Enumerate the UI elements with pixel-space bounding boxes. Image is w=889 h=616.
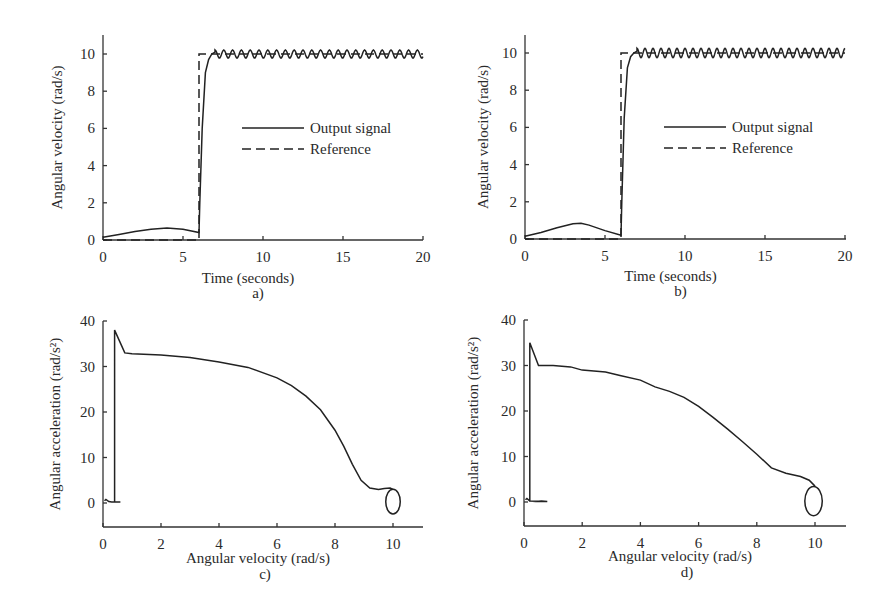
y-tick-label: 10 xyxy=(80,46,95,62)
y-tick-label: 0 xyxy=(88,495,96,511)
legend-label: Reference xyxy=(310,141,371,157)
y-tick-label: 6 xyxy=(510,119,518,135)
y-tick-label: 10 xyxy=(501,449,516,465)
y-tick-label: 2 xyxy=(88,195,96,211)
chart-panel-a: 051015200246810Time (seconds)Angular vel… xyxy=(49,35,431,302)
x-tick-label: 10 xyxy=(256,249,271,265)
y-tick-label: 30 xyxy=(501,358,516,374)
panel-caption: d) xyxy=(681,564,694,581)
output-signal-line xyxy=(103,50,423,237)
y-tick-label: 40 xyxy=(80,313,95,329)
y-tick-label: 40 xyxy=(501,312,516,328)
y-tick-label: 2 xyxy=(510,194,518,210)
x-tick-label: 8 xyxy=(753,535,761,551)
x-tick-label: 2 xyxy=(578,535,586,551)
x-tick-label: 5 xyxy=(601,248,609,264)
y-axis-label: Angular acceleration (rad/s²) xyxy=(465,337,482,510)
x-tick-label: 15 xyxy=(758,248,773,264)
y-axis-label: Angular acceleration (rad/s²) xyxy=(47,338,64,511)
legend: Output signalReference xyxy=(664,119,813,156)
limit-cycle-loop xyxy=(805,487,822,516)
chart-panel-d: 0246810010203040Angular velocity (rad/s)… xyxy=(465,312,846,581)
y-axis-label: Angular velocity (rad/s) xyxy=(475,65,492,209)
y-tick-label: 10 xyxy=(80,450,95,466)
x-tick-label: 0 xyxy=(521,248,529,264)
x-tick-label: 5 xyxy=(179,249,187,265)
legend-label: Output signal xyxy=(310,120,391,136)
y-tick-label: 4 xyxy=(88,158,96,174)
x-tick-label: 2 xyxy=(157,536,165,552)
x-tick-label: 10 xyxy=(808,535,823,551)
panel-caption: c) xyxy=(259,566,271,583)
x-axis-label: Time (seconds) xyxy=(624,268,716,285)
x-tick-label: 0 xyxy=(99,536,107,552)
legend: Output signalReference xyxy=(242,120,391,157)
chart-panel-b: 051015200246810Time (seconds)Angular vel… xyxy=(475,35,853,300)
panel-caption: a) xyxy=(252,285,264,302)
x-tick-label: 0 xyxy=(99,249,107,265)
y-tick-label: 0 xyxy=(88,232,96,248)
x-tick-label: 20 xyxy=(416,249,431,265)
x-axis-label: Time (seconds) xyxy=(202,270,294,287)
x-tick-label: 0 xyxy=(520,535,528,551)
y-tick-label: 4 xyxy=(510,157,518,173)
figure: 051015200246810Time (seconds)Angular vel… xyxy=(0,0,889,616)
x-tick-label: 15 xyxy=(336,249,351,265)
reference-line xyxy=(525,53,845,239)
x-tick-label: 10 xyxy=(386,536,401,552)
x-axis-label: Angular velocity (rad/s) xyxy=(186,550,330,567)
x-axis-label: Angular velocity (rad/s) xyxy=(608,548,752,565)
phase-trajectory-line xyxy=(105,330,394,502)
legend-label: Output signal xyxy=(732,119,813,135)
y-tick-label: 20 xyxy=(80,404,95,420)
limit-cycle-loop xyxy=(386,489,401,514)
x-tick-label: 10 xyxy=(678,248,693,264)
output-signal-line xyxy=(525,48,845,236)
panel-caption: b) xyxy=(674,283,687,300)
x-tick-label: 8 xyxy=(331,536,339,552)
y-tick-label: 10 xyxy=(502,45,517,61)
y-axis-label: Angular velocity (rad/s) xyxy=(49,65,66,209)
legend-label: Reference xyxy=(732,140,793,156)
reference-line xyxy=(103,54,423,240)
phase-trajectory-line xyxy=(526,343,816,502)
y-tick-label: 6 xyxy=(88,120,96,136)
y-tick-label: 0 xyxy=(510,231,518,247)
y-tick-label: 8 xyxy=(510,82,518,98)
y-tick-label: 20 xyxy=(501,403,516,419)
y-tick-label: 30 xyxy=(80,359,95,375)
y-tick-label: 0 xyxy=(509,494,517,510)
chart-panel-c: 0246810010203040Angular velocity (rad/s)… xyxy=(47,313,423,583)
x-tick-label: 20 xyxy=(838,248,853,264)
y-tick-label: 8 xyxy=(88,83,96,99)
